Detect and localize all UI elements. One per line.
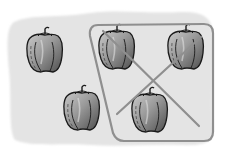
subtraction-illustration: Subtraction picture: five bell peppers, …: [0, 0, 234, 155]
